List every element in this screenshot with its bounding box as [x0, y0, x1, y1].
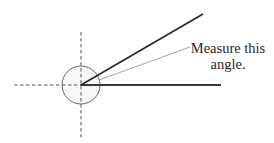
- upper-ray: [81, 14, 203, 85]
- angle-vertex: [80, 84, 82, 86]
- annotation-line-1: Measure this: [191, 40, 266, 56]
- annotation-line-2: angle.: [210, 56, 245, 72]
- annotation-leader-line: [99, 47, 190, 80]
- angle-diagram: Measure this angle.: [0, 0, 274, 143]
